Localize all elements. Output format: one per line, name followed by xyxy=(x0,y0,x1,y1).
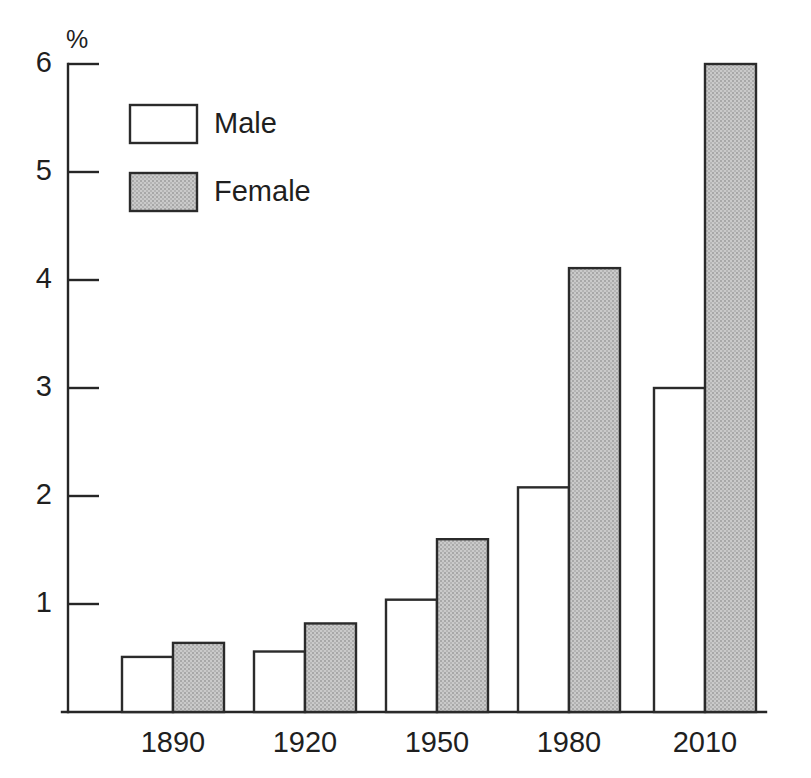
bar-2010-male xyxy=(654,388,705,712)
x-axis-label-1920: 1920 xyxy=(273,726,338,758)
x-axis-label-1890: 1890 xyxy=(141,726,206,758)
y-axis-label-5: 5 xyxy=(36,154,52,186)
bar-1920-female xyxy=(305,623,356,712)
bar-1980-male xyxy=(518,487,569,712)
y-axis-label-6: 6 xyxy=(36,46,52,78)
y-axis-tick-labels: 6 5 4 3 2 1 xyxy=(36,46,52,618)
bar-1920-male xyxy=(254,652,305,712)
bar-1950-female xyxy=(437,539,488,712)
x-axis-tick-labels: 18901920195019802010 xyxy=(141,726,738,758)
bar-1980-female xyxy=(569,268,620,712)
x-axis-label-1950: 1950 xyxy=(405,726,470,758)
x-axis-label-1980: 1980 xyxy=(537,726,602,758)
legend-label-male: Male xyxy=(214,107,277,139)
y-axis-label-4: 4 xyxy=(36,262,52,294)
bar-2010-female xyxy=(705,64,756,712)
bar-1890-female xyxy=(173,643,224,712)
y-axis-unit-label: % xyxy=(66,25,88,53)
bar-1950-male xyxy=(386,600,437,712)
x-axis-label-2010: 2010 xyxy=(673,726,738,758)
legend-swatch-male xyxy=(130,105,197,143)
legend-label-female: Female xyxy=(214,175,311,207)
legend-swatch-female xyxy=(130,173,197,211)
chart-canvas: 6 5 4 3 2 1 % 18901920195019802010 Male … xyxy=(0,0,811,778)
y-axis-label-3: 3 xyxy=(36,370,52,402)
chart-legend: Male Female xyxy=(130,105,311,211)
chart-bars xyxy=(122,64,756,712)
y-axis-label-1: 1 xyxy=(36,586,52,618)
bar-1890-male xyxy=(122,657,173,712)
bar-chart: 6 5 4 3 2 1 % 18901920195019802010 Male … xyxy=(0,0,811,778)
y-axis-label-2: 2 xyxy=(36,478,52,510)
